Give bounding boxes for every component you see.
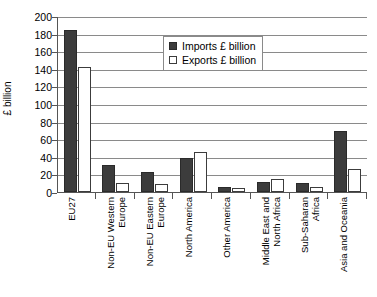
chart-legend: Imports £ billion Exports £ billion <box>163 36 263 71</box>
bar-imports <box>102 165 115 192</box>
y-axis-tick-label: 80 <box>12 117 52 128</box>
y-axis-tick-label: 200 <box>12 12 52 23</box>
y-axis-tick-label: 100 <box>12 100 52 111</box>
y-axis-tick-label: 120 <box>12 82 52 93</box>
y-axis-tick-label: 160 <box>12 47 52 58</box>
bar-group <box>328 17 367 192</box>
x-axis-label-cell: Asia and Oceania <box>328 197 367 295</box>
x-axis-label-cell: Other America <box>212 197 251 295</box>
bar-exports <box>78 67 91 192</box>
x-axis-category-label: Middle East andNorth Africa <box>260 197 282 293</box>
bar-imports <box>141 172 154 192</box>
x-axis-category-label: Non-EU WesternEurope <box>105 197 127 293</box>
x-axis-label-cell: Middle East andNorth Africa <box>251 197 290 295</box>
y-axis-tick-label: 60 <box>12 135 52 146</box>
bar-exports <box>271 179 284 192</box>
x-axis-category-labels: EU27Non-EU WesternEuropeNon-EU EasternEu… <box>57 197 367 295</box>
y-axis-tick-label: 140 <box>12 65 52 76</box>
bar-group <box>290 17 329 192</box>
x-axis-category-label: EU27 <box>66 197 77 293</box>
x-axis-category-label: Non-EU EasternEurope <box>144 197 166 293</box>
y-axis-tick-labels: 200180160140120100806040200 <box>8 17 52 193</box>
x-axis-category-label: North America <box>183 197 194 293</box>
legend-swatch-exports-icon <box>169 56 177 64</box>
bar-imports <box>180 158 193 192</box>
y-axis-tick-label: 20 <box>12 170 52 181</box>
bar-exports <box>194 152 207 192</box>
bar-imports <box>334 131 347 192</box>
legend-swatch-imports-icon <box>169 42 177 50</box>
legend-item-exports: Exports £ billion <box>169 54 256 66</box>
bar-chart: £ billion 200180160140120100806040200 EU… <box>0 0 377 297</box>
x-axis-category-label: Sub-SaharanAfrica <box>299 197 321 293</box>
bar-imports <box>257 182 270 192</box>
x-axis-category-label: Other America <box>221 197 232 293</box>
bar-exports <box>310 187 323 192</box>
x-axis-category-label: Asia and Oceania <box>338 197 349 293</box>
x-axis-label-cell: Non-EU WesternEurope <box>96 197 135 295</box>
bar-imports <box>64 30 77 192</box>
x-axis-label-cell: Non-EU EasternEurope <box>135 197 174 295</box>
bar-imports <box>296 183 309 192</box>
bar-exports <box>116 183 129 192</box>
y-axis-tick-label: 40 <box>12 153 52 164</box>
bar-group <box>58 17 97 192</box>
legend-label-exports: Exports £ billion <box>182 54 256 66</box>
bar-group <box>97 17 136 192</box>
bar-exports <box>348 169 361 192</box>
y-axis-tick-label: 0 <box>12 188 52 199</box>
x-axis-label-cell: North America <box>173 197 212 295</box>
bar-exports <box>232 188 245 192</box>
x-axis-label-cell: Sub-SaharanAfrica <box>290 197 329 295</box>
y-axis-tick-label: 180 <box>12 29 52 40</box>
legend-item-imports: Imports £ billion <box>169 40 256 52</box>
legend-label-imports: Imports £ billion <box>182 40 256 52</box>
x-axis-label-cell: EU27 <box>57 197 96 295</box>
bar-imports <box>218 187 231 192</box>
bar-exports <box>155 184 168 192</box>
